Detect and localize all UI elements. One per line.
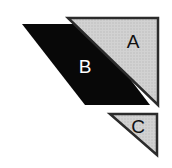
shape-a-label: A [127, 31, 140, 52]
shape-b-label: B [79, 56, 92, 77]
shapes-diagram: A B C [0, 0, 172, 168]
figure-canvas: A B C [0, 0, 172, 168]
shape-c-label: C [131, 116, 145, 137]
